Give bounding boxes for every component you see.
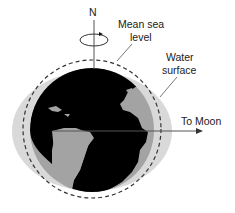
mean-sea-level-leader	[117, 44, 132, 61]
to-moon-label: To Moon	[181, 115, 221, 127]
arrow-head-icon	[196, 128, 203, 134]
water-surface-label-1: Water	[166, 51, 194, 63]
north-label: N	[89, 6, 97, 18]
water-surface-leader	[160, 77, 177, 97]
tide-diagram: N Mean sea level Water surface To Moon	[0, 0, 235, 213]
water-surface-label-2: surface	[162, 64, 197, 76]
mean-sea-level-label-2: level	[130, 31, 152, 43]
mean-sea-level-label-1: Mean sea	[118, 18, 164, 30]
